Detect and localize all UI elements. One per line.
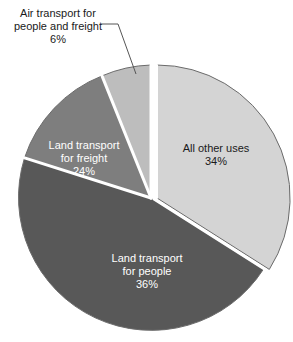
slice-label-line: Air transport for [6, 7, 110, 20]
slice-value-label: 6% [6, 33, 110, 46]
slice-label-air-transport: Air transport for people and freight 6% [6, 7, 110, 47]
callout-line-diagonal [118, 24, 136, 74]
pie-chart-canvas [0, 0, 293, 342]
pie-chart: All other uses 34% Land transport for pe… [0, 0, 293, 342]
slice-label-line: people and freight [6, 20, 110, 33]
